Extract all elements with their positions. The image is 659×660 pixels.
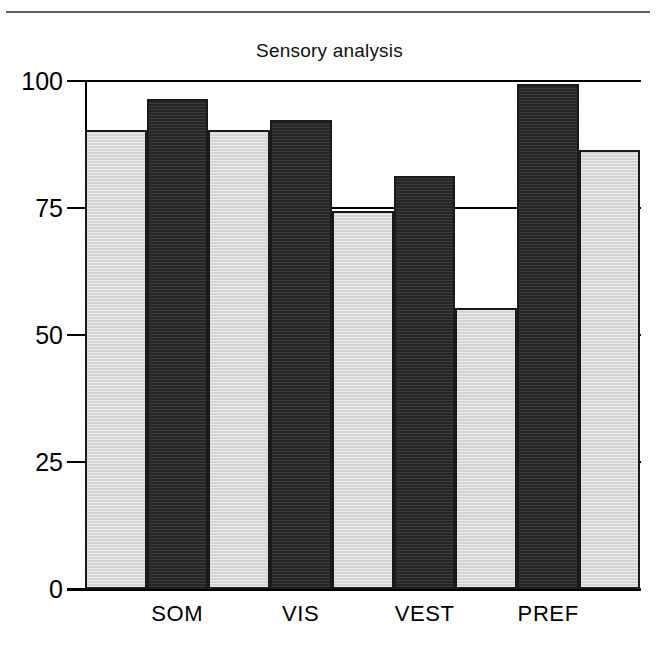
y-tick-label: 75 [35,194,63,223]
page-top-rule [6,11,650,13]
bar-light-0 [85,130,147,589]
x-axis-label-som: SOM [151,601,203,627]
y-tick-label: 0 [49,575,63,604]
bar-light-2 [208,130,270,589]
bar-dark-1 [147,99,209,589]
x-axis-label-pref: PREF [518,601,579,627]
plot-area: 0255075100 [85,81,641,589]
figure-container: Sensory analysis 0255075100 SOMVISVESTPR… [0,0,659,660]
x-axis-labels: SOMVISVESTPREF [85,601,641,641]
bar-dark-4 [270,120,332,589]
y-tick-label: 100 [21,67,63,96]
x-axis-label-vis: VIS [282,601,319,627]
y-tick-label: 25 [35,448,63,477]
bar-group [85,81,641,589]
bar-dark-10 [517,84,579,589]
x-axis-label-vest: VEST [395,601,455,627]
bar-light-11 [579,150,641,589]
bar-light-8 [455,308,517,589]
bar-dark-7 [394,176,456,589]
y-tick-label: 50 [35,321,63,350]
chart-title: Sensory analysis [0,40,659,62]
bar-light-5 [332,211,394,589]
